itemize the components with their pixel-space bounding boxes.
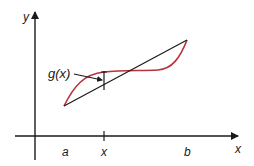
tick-label-b: b bbox=[184, 146, 191, 158]
function-label-gx: g(x) bbox=[48, 67, 70, 80]
tick-label-x: x bbox=[101, 146, 107, 158]
diagram-canvas bbox=[0, 0, 254, 166]
y-axis-label: y bbox=[23, 11, 29, 23]
mean-value-diagram: y x a x b g(x) bbox=[0, 0, 254, 166]
secant-chord bbox=[64, 40, 187, 106]
x-axis-label: x bbox=[235, 143, 241, 155]
g-leader-arrow bbox=[74, 74, 102, 80]
tick-label-a: a bbox=[62, 146, 69, 158]
